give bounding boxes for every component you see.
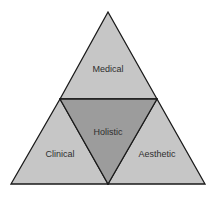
label-medical: Medical	[92, 64, 123, 74]
segment-medical	[60, 12, 157, 99]
triangle-diagram: Medical Holistic Clinical Aesthetic	[0, 0, 216, 197]
label-aesthetic: Aesthetic	[138, 149, 176, 159]
label-holistic: Holistic	[93, 127, 123, 137]
label-clinical: Clinical	[45, 149, 74, 159]
